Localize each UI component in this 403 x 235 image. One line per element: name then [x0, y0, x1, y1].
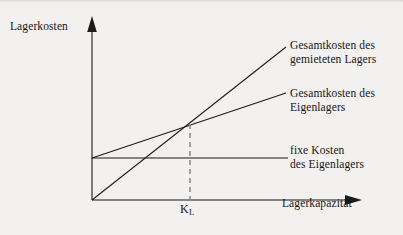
kl-symbol: K	[180, 202, 189, 216]
legend-fixed-line-1: fixe Kosten	[290, 143, 364, 157]
kl-subscript: L	[189, 207, 195, 217]
legend-rented-line-1: Gesamtkosten des	[290, 38, 376, 52]
legend-label-rented-warehouse: Gesamtkosten des gemieteten Lagers	[290, 38, 376, 66]
x-axis-tick-label-kl: KL	[180, 203, 194, 220]
series-line-rented-warehouse	[92, 47, 286, 200]
legend-own-line-2: Eigenlagers	[290, 100, 375, 114]
x-axis-title: Lagerkapazität	[282, 197, 352, 211]
legend-fixed-line-2: des Eigenlagers	[290, 157, 364, 171]
legend-rented-line-2: gemieteten Lagers	[290, 52, 376, 66]
legend-label-own-warehouse: Gesamtkosten des Eigenlagers	[290, 86, 375, 114]
storage-cost-diagram: Lagerkosten Lagerkapazität Gesamtkosten …	[0, 0, 403, 235]
legend-own-line-1: Gesamtkosten des	[290, 86, 375, 100]
y-axis-title: Lagerkosten	[10, 20, 68, 34]
legend-label-fixed-cost: fixe Kosten des Eigenlagers	[290, 143, 364, 171]
series-line-own-warehouse	[92, 93, 286, 158]
y-axis	[87, 16, 97, 200]
